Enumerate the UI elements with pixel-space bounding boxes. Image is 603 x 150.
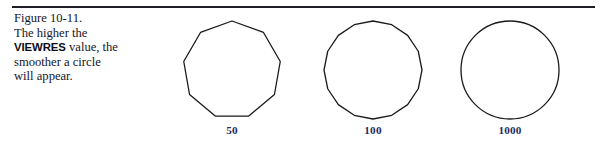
polygon-16-sided-icon <box>317 14 429 126</box>
shape-row: 50 100 1000 <box>170 14 590 146</box>
viewres-keyword: VIEWRES <box>14 41 66 53</box>
polygon-9-sided-icon <box>176 14 288 126</box>
circle-icon <box>454 14 566 126</box>
caption-line-2-rest: value, the <box>66 40 118 54</box>
shape-path-2 <box>461 21 559 119</box>
shape-cell-100: 100 <box>317 14 429 146</box>
figure-number: Figure 10-11. <box>14 11 166 26</box>
shape-cell-1000: 1000 <box>454 14 566 146</box>
shape-label-1000: 1000 <box>454 124 566 136</box>
shape-path-0 <box>184 21 281 116</box>
caption-line-4: will appear. <box>14 69 166 84</box>
shape-path-1 <box>324 21 422 119</box>
horizontal-rule <box>12 6 595 8</box>
caption-line-2: VIEWRES value, the <box>14 40 166 55</box>
caption-line-3: smoother a circle <box>14 55 166 70</box>
figure-page: Figure 10-11. The higher the VIEWRES val… <box>0 0 603 150</box>
shape-cell-50: 50 <box>176 14 288 146</box>
shape-label-100: 100 <box>317 124 429 136</box>
figure-caption: Figure 10-11. The higher the VIEWRES val… <box>14 11 166 84</box>
caption-line-1: The higher the <box>14 26 166 41</box>
shape-label-50: 50 <box>176 124 288 136</box>
